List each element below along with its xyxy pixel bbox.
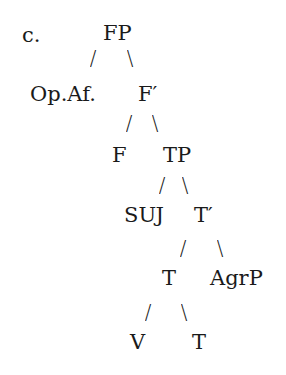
node-v: V (130, 332, 145, 353)
node-tp: TP (163, 145, 191, 166)
branch-t-right: \ (181, 300, 187, 325)
node-f-bar: F′ (138, 84, 157, 105)
node-agrp: AgrP (210, 268, 263, 289)
node-t-head: T (162, 268, 176, 289)
branch-fbar-right: \ (152, 111, 158, 136)
branch-t-left: / (145, 300, 151, 325)
node-fp: FP (103, 23, 132, 44)
node-op-af: Op.Af. (30, 84, 96, 105)
example-label: c. (22, 25, 40, 46)
branch-fp-right: \ (127, 46, 133, 71)
branch-tbar-left: / (180, 236, 186, 261)
node-t-bar: T′ (194, 205, 213, 226)
node-f: F (112, 145, 127, 166)
node-suj: SUJ (124, 205, 164, 226)
branch-fp-left: / (90, 46, 96, 71)
branch-fbar-left: / (126, 111, 132, 136)
branch-tp-right: \ (182, 173, 188, 198)
branch-tp-left: / (159, 173, 165, 198)
node-t-leaf: T (192, 332, 206, 353)
branch-tbar-right: \ (217, 236, 223, 261)
